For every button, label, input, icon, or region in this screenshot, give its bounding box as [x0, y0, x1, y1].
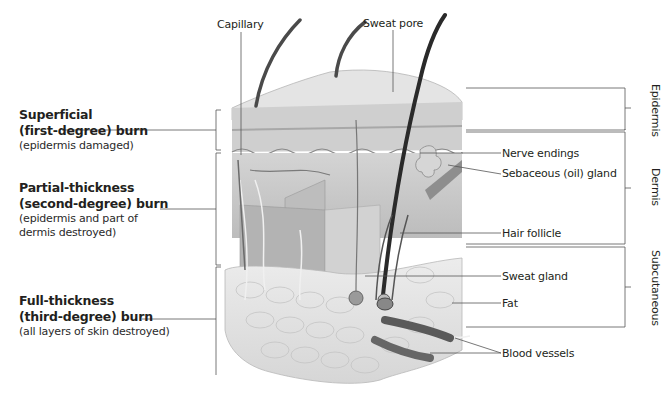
burn-title: (first-degree) burn	[19, 123, 219, 139]
burn-description: (epidermis and part of	[19, 212, 219, 226]
burn-description: (epidermis damaged)	[19, 139, 219, 153]
layer-label-subcutaneous: Subcutaneous	[649, 250, 662, 326]
label-nerve-endings: Nerve endings	[502, 147, 579, 160]
burn-superficial: Superficial (first-degree) burn (epiderm…	[19, 107, 219, 153]
burn-description: dermis destroyed)	[19, 226, 219, 240]
label-sweat-pore: Sweat pore	[363, 17, 423, 30]
layer-label-epidermis: Epidermis	[649, 84, 662, 137]
burn-title: (second-degree) burn	[19, 196, 219, 212]
burn-description: (all layers of skin destroyed)	[19, 325, 229, 339]
label-capillary: Capillary	[217, 18, 264, 31]
hair	[336, 22, 365, 76]
burn-title: Superficial	[19, 107, 219, 123]
label-sebaceous-gland: Sebaceous (oil) gland	[502, 167, 617, 180]
subcutaneous-fat	[225, 258, 462, 383]
burn-full-thickness: Full-thickness (third-degree) burn (all …	[19, 293, 229, 339]
label-sweat-gland: Sweat gland	[502, 270, 568, 283]
burn-partial-thickness: Partial-thickness (second-degree) burn (…	[19, 180, 219, 240]
label-hair-follicle: Hair follicle	[502, 227, 561, 240]
burn-title: Partial-thickness	[19, 180, 219, 196]
burn-title: Full-thickness	[19, 293, 229, 309]
label-fat: Fat	[502, 297, 518, 310]
burn-title: (third-degree) burn	[19, 309, 229, 325]
label-blood-vessels: Blood vessels	[502, 347, 574, 360]
layer-label-dermis: Dermis	[649, 168, 662, 206]
